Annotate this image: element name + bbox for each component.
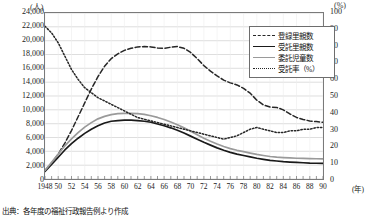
y-axis-left-tick: 12,000 [4,92,44,100]
y-axis-right-tick: 30 [330,126,356,134]
y-axis-left-tick: 22,000 [4,22,44,30]
y-axis-left-tick: 4,000 [4,148,44,156]
legend-swatch-icon [253,53,275,62]
legend-swatch-icon [253,64,275,73]
y-axis-left-tick: 18,000 [4,50,44,58]
y-axis-right-tick: 40 [330,109,356,117]
y-axis-left-tick: 20,000 [4,36,44,44]
x-axis-unit: (年) [352,183,364,194]
y-axis-left-tick: 2,000 [4,162,44,170]
legend-item-label: 受託率（%） [278,63,319,74]
x-axis-tick: 90 [312,183,334,191]
legend-swatch-icon [253,31,275,40]
y-axis-left-tick: 24,000 [4,8,44,16]
y-axis-right-tick: 20 [330,142,356,150]
y-axis-left-tick: 14,000 [4,78,44,86]
legend-item-label: 委託児童数 [278,52,313,63]
legend-item-label: 登録里親数 [278,30,313,41]
legend-item: 受託率（%） [253,63,330,74]
legend-item: 委託児童数 [253,52,330,63]
legend-swatch-icon [253,42,275,51]
y-axis-right-tick: 10 [330,159,356,167]
y-axis-right-tick: 50 [330,92,356,100]
chart-figure: (人) (%) 24,00022,00020,00018,00016,00014… [0,0,372,219]
y-axis-left-tick: 10,000 [4,106,44,114]
y-axis-left-tick: 16,000 [4,64,44,72]
legend-item: 受託里親数 [253,41,330,52]
legend-item-label: 受託里親数 [278,41,313,52]
y-axis-left-tick: 8,000 [4,120,44,128]
legend-item: 登録里親数 [253,30,330,41]
y-axis-right-tick: 100 [330,8,356,16]
y-axis-left-tick: 6,000 [4,134,44,142]
chart-legend: 登録里親数受託里親数委託児童数受託率（%） [249,26,335,78]
source-caption: 出典：各年度の福祉行政報告例より作成 [2,205,128,216]
